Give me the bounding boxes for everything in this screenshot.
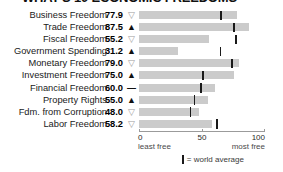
row-label: Labor Freedom — [0, 119, 107, 130]
axis-label-50: 50 — [198, 133, 207, 142]
axis-label-0: 0 — [138, 133, 142, 142]
economic-freedoms-chart: WHAT'S 10 ECONOMIC FREEDOMS Business Fre… — [0, 0, 283, 172]
bar-fill — [139, 120, 212, 128]
row-value: 55.0 — [101, 95, 123, 106]
row-label: Government Spending — [0, 46, 107, 57]
trend-down-icon: ▽ — [126, 10, 137, 21]
world-average-marker — [220, 47, 222, 57]
row-label: Investment Freedom — [0, 70, 107, 81]
axis-tick-100 — [264, 129, 265, 132]
row-label: Fiscal Freedom — [0, 34, 107, 45]
world-average-marker — [235, 35, 237, 45]
axis-caption-least-free: least free — [138, 142, 171, 151]
world-average-marker — [194, 95, 196, 105]
row-label: Trade Freedom — [0, 22, 107, 33]
bar-track — [139, 108, 265, 116]
row-label: Fdm. from Corruption — [0, 107, 107, 118]
row-value: 60.0 — [101, 83, 123, 94]
bar-fill — [139, 11, 237, 19]
trend-down-icon: ▽ — [126, 58, 137, 69]
chart-row: Labor Freedom58.2▽ — [0, 119, 283, 131]
row-value: 79.0 — [101, 58, 123, 69]
chart-row: Financial Freedom60.0— — [0, 83, 283, 95]
bar-fill — [139, 35, 209, 43]
chart-row: Fiscal Freedom55.2▽ — [0, 34, 283, 46]
row-label: Monetary Freedom — [0, 58, 107, 69]
bar-track — [139, 47, 265, 55]
legend: = world average — [182, 155, 244, 164]
bar-track — [139, 84, 265, 92]
bar-fill — [139, 47, 178, 55]
axis-caption-most-free: most free — [232, 142, 265, 151]
bar-fill — [139, 84, 215, 92]
trend-up-icon: ▲ — [126, 46, 137, 57]
trend-up-icon: ▲ — [126, 95, 137, 106]
chart-row: Business Freedom77.9▽ — [0, 10, 283, 22]
trend-up-icon: ▲ — [126, 22, 137, 33]
bar-track — [139, 96, 265, 104]
bar-fill — [139, 71, 234, 79]
row-value: 87.5 — [101, 22, 123, 33]
trend-down-icon: ▽ — [126, 34, 137, 45]
chart-row: Property Rights55.0▲ — [0, 95, 283, 107]
bar-track — [139, 35, 265, 43]
world-average-marker — [216, 119, 218, 129]
world-average-marker-icon — [182, 155, 184, 164]
bar-track — [139, 11, 265, 19]
row-value: 31.2 — [101, 46, 123, 57]
page-title: WHAT'S 10 ECONOMIC FREEDOMS — [22, 0, 237, 4]
bar-track — [139, 120, 265, 128]
trend-down-icon: ▽ — [126, 107, 137, 118]
row-label: Business Freedom — [0, 10, 107, 21]
bar-track — [139, 71, 265, 79]
bar-track — [139, 59, 265, 67]
row-value: 58.2 — [101, 119, 123, 130]
world-average-marker — [200, 83, 202, 93]
chart-row: Investment Freedom75.0▲ — [0, 70, 283, 82]
row-value: 48.0 — [101, 107, 123, 118]
world-average-marker — [202, 71, 204, 81]
chart-row: Government Spending31.2▲ — [0, 46, 283, 58]
trend-up-icon: ▲ — [126, 70, 137, 81]
world-average-marker — [231, 59, 233, 69]
chart-row: Monetary Freedom79.0▽ — [0, 58, 283, 70]
axis-tick-50 — [202, 129, 203, 132]
trend-flat-icon: — — [126, 83, 137, 94]
row-label: Property Rights — [0, 95, 107, 106]
axis-label-100: 100 — [252, 133, 265, 142]
bar-fill — [139, 96, 208, 104]
row-value: 55.2 — [101, 34, 123, 45]
world-average-marker — [220, 11, 222, 21]
chart-row: Fdm. from Corruption48.0▽ — [0, 107, 283, 119]
axis-tick-0 — [139, 129, 140, 132]
bar-track — [139, 23, 265, 31]
chart-row: Trade Freedom87.5▲ — [0, 22, 283, 34]
x-axis: 0 50 100 least free most free — [139, 131, 265, 132]
row-value: 75.0 — [101, 70, 123, 81]
trend-down-icon: ▽ — [126, 119, 137, 130]
row-label: Financial Freedom — [0, 83, 107, 94]
world-average-marker — [190, 107, 192, 117]
chart-rows: Business Freedom77.9▽Trade Freedom87.5▲F… — [0, 10, 283, 131]
world-average-marker — [233, 23, 235, 33]
row-value: 77.9 — [101, 10, 123, 21]
legend-label: = world average — [187, 155, 244, 164]
bar-fill — [139, 59, 239, 67]
